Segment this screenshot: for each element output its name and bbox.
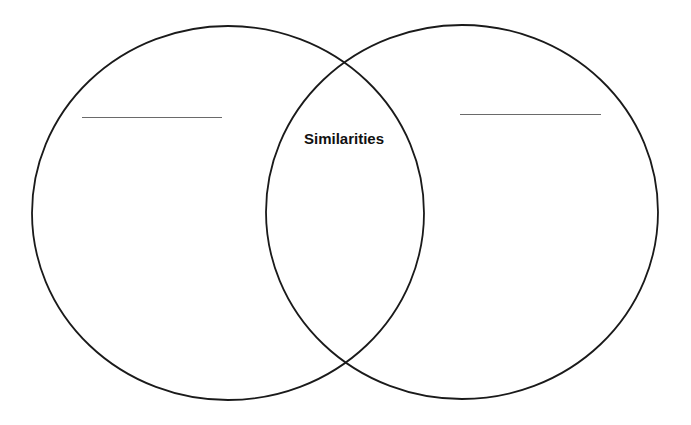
right-title-line[interactable] — [460, 114, 601, 115]
right-circle — [266, 25, 658, 399]
venn-circles — [0, 0, 691, 425]
venn-diagram: Similarities — [0, 0, 691, 425]
left-title-line[interactable] — [82, 117, 222, 118]
similarities-label: Similarities — [304, 131, 384, 146]
left-circle — [32, 26, 424, 400]
